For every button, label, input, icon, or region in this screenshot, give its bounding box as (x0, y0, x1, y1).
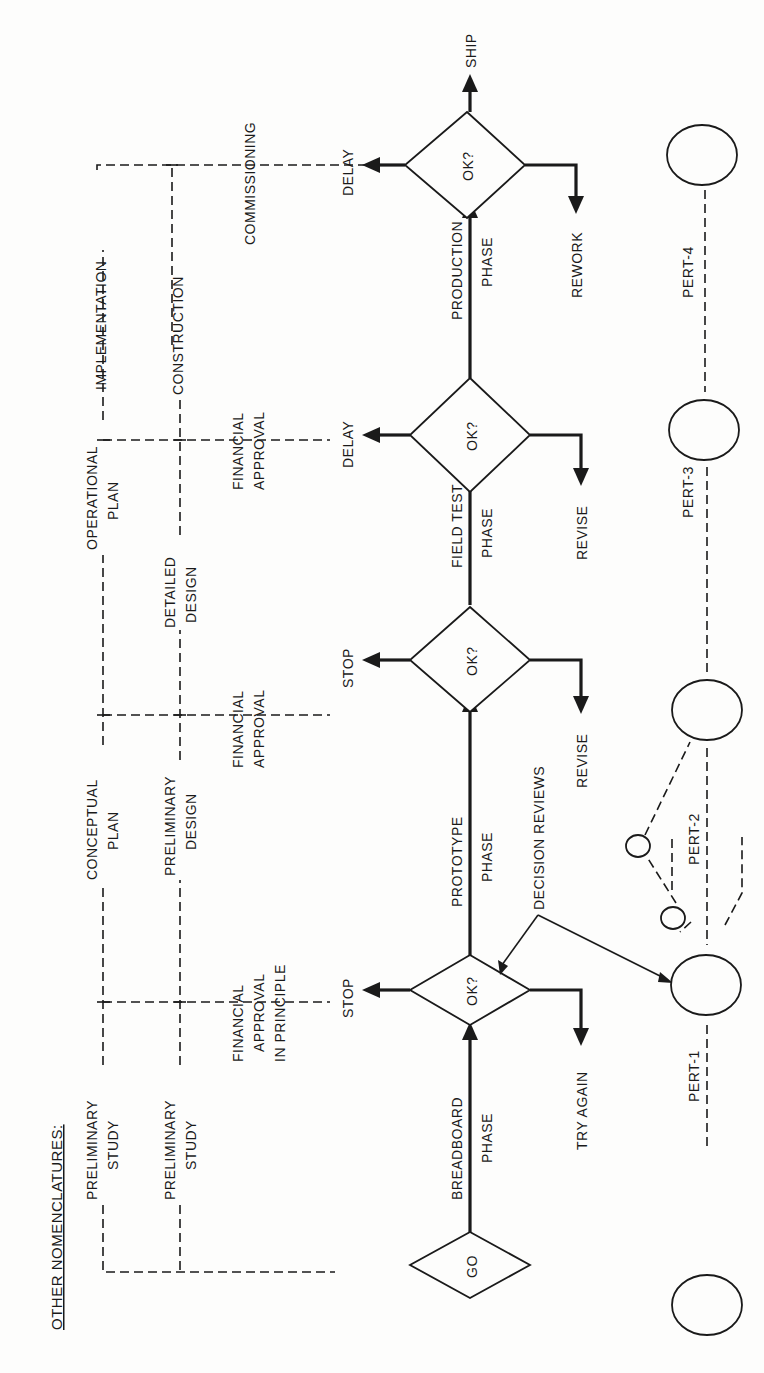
ok-label-4: OK? (460, 151, 476, 181)
phase-prototype-b: PHASE (479, 832, 495, 882)
label-conceptual-plan-b: PLAN (105, 811, 121, 850)
phase-prototype-a: PROTOTYPE (449, 816, 465, 907)
label-fin-approval-2a: FINANCIAL (230, 690, 246, 768)
pert-4-label: PERT-4 (680, 246, 696, 298)
pert-node-1 (672, 1275, 742, 1335)
outcome-try-again: TRY AGAIN (574, 1071, 590, 1150)
label-fin-approval-principle-b: APPROVAL (251, 974, 267, 1052)
label-preliminary-study-1a: PRELIMINARY (84, 1100, 100, 1200)
pert-node-3 (672, 680, 742, 740)
label-fin-approval-2b: APPROVAL (251, 690, 267, 768)
outcome-delay-2: DELAY (340, 148, 356, 196)
label-fin-approval-3a: FINANCIAL (230, 412, 246, 490)
label-preliminary-design-a: PRELIMINARY (162, 776, 178, 876)
pert-node-5 (667, 125, 737, 185)
decision-reviews-label: DECISION REVIEWS (531, 766, 547, 910)
pert-2-label: PERT-2 (686, 813, 702, 865)
outcome-stop-1: STOP (340, 978, 356, 1018)
label-preliminary-study-2a: PRELIMINARY (162, 1100, 178, 1200)
outcome-revise-2: REVISE (574, 506, 590, 560)
phase-review-diagram: OTHER NOMENCLATURES: PRELIMINARY STUDY C… (0, 0, 764, 1373)
decision-reviews-pointers (498, 915, 673, 983)
pert-node-4 (669, 400, 739, 460)
pert-node-2 (671, 955, 741, 1015)
outcome-stop-2: STOP (340, 648, 356, 688)
label-fin-approval-principle-a: FINANCIAL (230, 984, 246, 1062)
label-conceptual-plan-a: CONCEPTUAL (84, 779, 100, 880)
phase-breadboard-b: PHASE (479, 1113, 495, 1163)
label-fin-approval-principle-c: IN PRINCIPLE (272, 964, 288, 1062)
nomenclature-title: OTHER NOMENCLATURES: (48, 1124, 65, 1330)
label-commissioning: COMMISSIONING (242, 122, 258, 245)
phase-production-b: PHASE (479, 237, 495, 287)
pert-subnode-2 (661, 907, 685, 929)
phase-breadboard-a: BREADBOARD (449, 1097, 465, 1200)
outcome-delay-1: DELAY (340, 420, 356, 468)
label-preliminary-design-b: DESIGN (183, 793, 199, 850)
label-detailed-design-a: DETAILED (162, 557, 178, 628)
phase-production-a: PRODUCTION (449, 221, 465, 320)
outcome-rework: REWORK (569, 232, 585, 298)
ok-label-3: OK? (464, 421, 480, 451)
outcome-revise-1: REVISE (574, 734, 590, 788)
label-operational-plan-b: PLAN (105, 481, 121, 520)
reject-arrows (362, 157, 410, 998)
pert-1-label: PERT-1 (686, 1050, 702, 1102)
phase-fieldtest-a: FIELD TEST (449, 484, 465, 568)
label-operational-plan-a: OPERATIONAL (84, 446, 100, 550)
go-label: GO (464, 1255, 480, 1278)
label-implementation: IMPLEMENTATION (93, 261, 109, 390)
pert-3-label: PERT-3 (680, 466, 696, 518)
label-preliminary-study-2b: STUDY (183, 1120, 199, 1170)
pert-network (626, 125, 742, 1335)
phase-fieldtest-b: PHASE (479, 508, 495, 558)
label-construction: CONSTRUCTION (170, 276, 186, 395)
ok-label-2: OK? (464, 646, 480, 676)
outcome-ship: SHIP (463, 33, 479, 68)
ok-label-1: OK? (464, 976, 480, 1006)
label-fin-approval-3b: APPROVAL (251, 412, 267, 490)
pert-subnode-1 (626, 835, 650, 857)
label-detailed-design-b: DESIGN (183, 566, 199, 623)
label-preliminary-study-1b: STUDY (105, 1120, 121, 1170)
